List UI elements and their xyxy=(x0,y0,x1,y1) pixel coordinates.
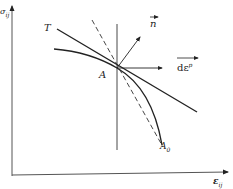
yield-curve xyxy=(54,49,162,145)
yield-surface-diagram xyxy=(0,0,233,189)
label-A0: A0 xyxy=(160,142,170,153)
normal-vector-n xyxy=(117,37,140,68)
label-T: T xyxy=(44,23,51,33)
y-axis-label: σij xyxy=(0,8,9,18)
x-axis-label: εij xyxy=(213,177,222,188)
label-n: n xyxy=(150,19,156,29)
label-A: A xyxy=(99,70,106,80)
x-axis xyxy=(12,172,228,175)
label-de-p: dεp xyxy=(177,62,192,73)
tangent-line-T xyxy=(57,29,197,112)
dashed-line xyxy=(92,20,163,147)
